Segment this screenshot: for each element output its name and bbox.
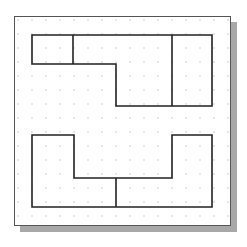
grid-dot (143, 61, 145, 63)
grid-dot (171, 131, 173, 133)
grid-dot (17, 75, 19, 77)
grid-dot (17, 201, 19, 203)
grid-dot (213, 145, 215, 147)
grid-dot (171, 187, 173, 189)
grid-dot (213, 19, 215, 21)
grid-dot (129, 47, 131, 49)
grid-dot (185, 103, 187, 105)
grid-dot (157, 159, 159, 161)
grid-dot (101, 131, 103, 133)
grid-dot (73, 117, 75, 119)
grid-dot (185, 145, 187, 147)
grid-dot (129, 103, 131, 105)
grid-dot (17, 61, 19, 63)
grid-dot (59, 89, 61, 91)
grid-dot (185, 47, 187, 49)
grid-dot (45, 215, 47, 217)
grid-dot (143, 47, 145, 49)
grid-dot (129, 201, 131, 203)
grid-dot (227, 75, 229, 77)
grid-dot (101, 117, 103, 119)
grid-dot (157, 103, 159, 105)
grid-dot (31, 19, 33, 21)
grid-dot (213, 215, 215, 217)
grid-dot (87, 201, 89, 203)
grid-dot (45, 103, 47, 105)
grid-dot (227, 145, 229, 147)
grid-dot (185, 215, 187, 217)
grid-dot (227, 33, 229, 35)
grid-dot (45, 75, 47, 77)
grid-dot (157, 201, 159, 203)
grid-dot (17, 19, 19, 21)
grid-dot (227, 61, 229, 63)
grid-dot (31, 131, 33, 133)
grid-dot (185, 19, 187, 21)
grid-dot (129, 75, 131, 77)
grid-dot (199, 159, 201, 161)
grid-dot (17, 187, 19, 189)
grid-dot (101, 61, 103, 63)
grid-dot (31, 117, 33, 119)
grid-dot (129, 19, 131, 21)
top-shape-dividers (73, 35, 172, 106)
grid-dot (115, 47, 117, 49)
grid-dot (143, 187, 145, 189)
grid-dot (59, 159, 61, 161)
grid-dot (17, 173, 19, 175)
grid-dot (171, 117, 173, 119)
grid-dot (45, 89, 47, 91)
grid-dot (87, 61, 89, 63)
grid-dot (101, 145, 103, 147)
grid-dot (31, 103, 33, 105)
grid-dot (227, 187, 229, 189)
grid-dot (59, 117, 61, 119)
grid-dot (157, 19, 159, 21)
grid-dot (157, 75, 159, 77)
grid-dot (87, 215, 89, 217)
grid-dot (143, 145, 145, 147)
bottom-shape (32, 135, 212, 207)
grid-dot (199, 173, 201, 175)
grid-dot (115, 159, 117, 161)
grid-dot (185, 131, 187, 133)
grid-dot (143, 19, 145, 21)
grid-dot (17, 159, 19, 161)
grid-dot (129, 187, 131, 189)
grid-dot (213, 159, 215, 161)
grid-dot (101, 215, 103, 217)
grid-dot (199, 187, 201, 189)
grid-dot (101, 173, 103, 175)
grid-dot (87, 145, 89, 147)
grid-dot (17, 89, 19, 91)
grid-dot (227, 215, 229, 217)
diagram-canvas (0, 0, 247, 247)
grid-dot (129, 117, 131, 119)
grid-dot (87, 117, 89, 119)
grid-dot (17, 215, 19, 217)
grid-dot (129, 215, 131, 217)
grid-dot (101, 201, 103, 203)
grid-dot (17, 33, 19, 35)
grid-dot (101, 103, 103, 105)
grid-dot (157, 187, 159, 189)
grid-dot (115, 117, 117, 119)
grid-dot (73, 201, 75, 203)
bottom-shape-outline (32, 135, 212, 207)
top-shape-outline (32, 35, 212, 106)
grid-dot (115, 131, 117, 133)
grid-dot (213, 201, 215, 203)
grid-dot (73, 131, 75, 133)
grid-dot (73, 89, 75, 91)
grid-dot (59, 187, 61, 189)
grid-dot (199, 145, 201, 147)
grid-dot (45, 159, 47, 161)
grid-dot (115, 145, 117, 147)
grid-dot (45, 173, 47, 175)
grid-dot (59, 215, 61, 217)
grid-dot (87, 187, 89, 189)
grid-dot (199, 47, 201, 49)
grid-dot (87, 103, 89, 105)
grid-dot (45, 19, 47, 21)
grid-dot (185, 173, 187, 175)
